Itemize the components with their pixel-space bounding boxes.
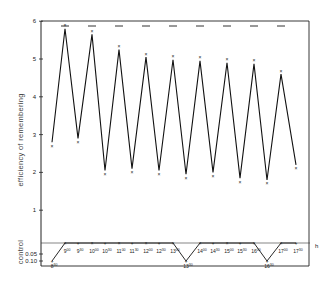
control-marker: × <box>118 241 121 246</box>
data-point-marker: × <box>172 53 175 59</box>
time-label: 1030 <box>102 248 112 254</box>
y-tick-label: 3 <box>33 132 37 138</box>
y-tick-label: 2 <box>33 169 37 175</box>
control-marker: × <box>226 241 229 246</box>
data-point-marker: × <box>158 171 161 177</box>
time-label: 900 <box>64 248 71 254</box>
y-tick-label: 1 <box>33 207 37 213</box>
data-point-marker: × <box>185 175 188 181</box>
data-point-marker: × <box>131 169 134 175</box>
control-marker: × <box>253 241 256 246</box>
control-marker: + <box>104 241 107 246</box>
control-marker: + <box>77 241 80 246</box>
control-marker: × <box>172 241 175 246</box>
time-label: 930 <box>77 248 84 254</box>
plot-frame <box>41 21 309 266</box>
data-point-marker: × <box>104 171 107 177</box>
time-label: 1130 <box>129 248 138 254</box>
control-tick-label: 0.10 <box>25 258 37 264</box>
control-marker: + <box>239 241 242 246</box>
data-point-marker: × <box>51 143 54 149</box>
control-marker: + <box>131 241 134 246</box>
control-marker: + <box>295 241 298 246</box>
control-tick-label: 0.05 <box>25 251 37 257</box>
control-marker: × <box>64 241 67 246</box>
data-point-marker: × <box>280 68 283 74</box>
time-label: 1500 <box>224 248 234 254</box>
time-label: 1630 <box>264 263 274 269</box>
data-point-marker: × <box>253 57 256 63</box>
time-label: 1400 <box>197 248 207 254</box>
data-point-marker: × <box>212 173 215 179</box>
time-label: 1530 <box>237 248 247 254</box>
time-label: 1300 <box>170 248 180 254</box>
data-point-marker: × <box>145 51 148 57</box>
data-point-marker: × <box>77 139 80 145</box>
control-marker: × <box>280 241 283 246</box>
data-point-marker: × <box>91 28 94 34</box>
y-axis-title: efficiency of remembering <box>16 93 25 186</box>
time-label: 1000 <box>89 248 99 254</box>
data-point-marker: × <box>226 56 229 62</box>
y-tick-label: 6 <box>33 18 37 24</box>
time-label: 830 <box>51 263 58 269</box>
data-point-marker: × <box>239 179 242 185</box>
efficiency-line <box>52 29 296 180</box>
y-axis: 1234560.050.10 <box>25 18 43 264</box>
data-point-marker: × <box>295 165 298 171</box>
time-label: 1430 <box>210 248 220 254</box>
data-point-marker: × <box>199 54 202 60</box>
time-label: 1230 <box>156 248 166 254</box>
control-axis-title: control <box>16 240 25 265</box>
data-point-marker: × <box>118 43 121 49</box>
control-marker: + <box>212 241 215 246</box>
time-label: 1200 <box>143 248 153 254</box>
y-tick-label: 5 <box>33 56 37 62</box>
x-axis-unit: h <box>315 243 318 249</box>
data-point-marker: × <box>64 22 67 28</box>
time-label: 1330 <box>183 263 193 269</box>
efficiency-chart: 1234560.050.10 efficiency of remembering… <box>0 0 335 290</box>
control-marker: + <box>158 241 161 246</box>
time-label: 1700 <box>278 248 288 254</box>
control-marker: × <box>199 241 202 246</box>
time-label: 1730 <box>293 248 303 254</box>
data-point-marker: × <box>266 180 269 186</box>
time-label: 1100 <box>116 248 125 254</box>
control-marker: × <box>145 241 148 246</box>
efficiency-series: ××××××××××××××××××× <box>51 22 298 186</box>
y-tick-label: 4 <box>33 94 37 100</box>
control-marker: × <box>91 241 94 246</box>
time-label: 1600 <box>251 248 261 254</box>
